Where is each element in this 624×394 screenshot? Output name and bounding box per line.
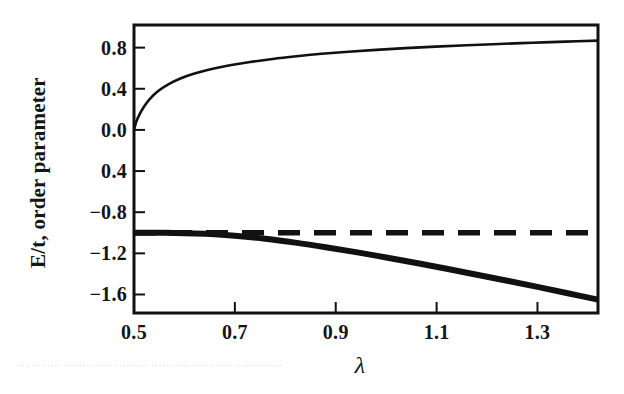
plot-frame <box>134 25 598 313</box>
x-tick-label-3: 1.1 <box>402 322 472 342</box>
chart-figure: E/t, order parameter 0.80.40.00.4−0.8−1.… <box>0 0 624 394</box>
y-tick-label-6: −1.6 <box>57 284 127 304</box>
x-tick-label-4: 1.3 <box>502 322 572 342</box>
series-curve-0 <box>134 41 598 130</box>
x-tick-label-1: 0.7 <box>200 322 270 342</box>
scan-artifact-text: ··· ·· ····· ········ ···· ········· ···… <box>18 360 608 372</box>
axis-frame <box>134 25 598 313</box>
y-tick-label-4: −0.8 <box>57 202 127 222</box>
x-tick-label-2: 0.9 <box>301 322 371 342</box>
data-series-layer <box>134 41 598 300</box>
x-tick-label-0: 0.5 <box>99 322 169 342</box>
y-axis-title: E/t, order parameter <box>26 58 51 288</box>
y-tick-label-2: 0.0 <box>57 120 127 140</box>
y-tick-label-5: −1.2 <box>57 243 127 263</box>
series-curve-1 <box>134 233 598 300</box>
y-tick-label-3: 0.4 <box>57 161 127 181</box>
y-tick-label-1: 0.4 <box>57 79 127 99</box>
y-tick-label-0: 0.8 <box>57 38 127 58</box>
